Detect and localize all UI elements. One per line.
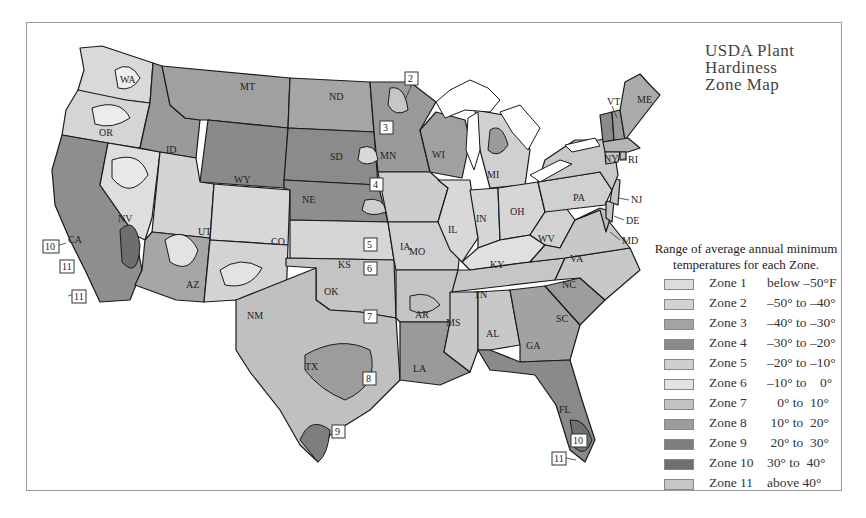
zone-range: above 40° xyxy=(767,475,822,491)
svg-text:5: 5 xyxy=(367,239,372,250)
state-label-al: AL xyxy=(486,328,499,339)
state-label-ms: MS xyxy=(446,317,460,328)
state-label-in: IN xyxy=(476,213,487,224)
zone-2-swatch xyxy=(664,299,694,310)
zone-6-swatch xyxy=(664,379,694,390)
state-label-va: VA xyxy=(570,253,584,264)
state-label-fl: FL xyxy=(559,404,571,415)
svg-text:4: 4 xyxy=(373,179,378,190)
state-label-az: AZ xyxy=(186,279,199,290)
state-label-ca: CA xyxy=(68,234,83,245)
state-label-mn: MN xyxy=(380,150,396,161)
state-label-wy: WY xyxy=(234,174,251,185)
state-label-vt: VT xyxy=(607,96,620,107)
legend-row-zone-8: Zone 8 10° to 20° xyxy=(664,415,844,435)
legend-row-zone-6: Zone 6 –10° to 0° xyxy=(664,375,844,395)
state-label-nm: NM xyxy=(247,310,263,321)
state-label-nv: NV xyxy=(118,213,133,224)
zone-legend: Zone 1 below –50°F Zone 2 –50° to –40° Z… xyxy=(664,275,844,495)
lake-michigan xyxy=(466,112,480,170)
state-label-wa: WA xyxy=(120,74,136,85)
legend-caption-line-1: Range of average annual minimum xyxy=(648,241,844,257)
state-label-sc: SC xyxy=(556,313,569,324)
zone-label: Zone 4 xyxy=(709,335,747,351)
svg-text:10: 10 xyxy=(573,435,583,446)
zone-range: 20° to 30° xyxy=(767,435,829,451)
zone-range: –10° to 0° xyxy=(767,375,832,391)
state-label-ks: KS xyxy=(338,259,351,270)
state-label-la: LA xyxy=(413,363,427,374)
zone-range: 30° to 40° xyxy=(767,455,825,471)
state-label-wi: WI xyxy=(432,149,445,160)
zone-label: Zone 9 xyxy=(709,435,747,451)
state-label-ar: AR xyxy=(415,309,429,320)
state-label-pa: PA xyxy=(573,192,586,203)
svg-text:7: 7 xyxy=(367,311,372,322)
svg-text:2: 2 xyxy=(408,73,413,84)
state-label-nc: NC xyxy=(562,279,576,290)
zone-range: –40° to –30° xyxy=(767,315,836,331)
zone-label: Zone 8 xyxy=(709,415,747,431)
legend-row-zone-11: Zone 11 above 40° xyxy=(664,475,844,495)
zone-range: 10° to 20° xyxy=(767,415,829,431)
legend-row-zone-4: Zone 4 –30° to –20° xyxy=(664,335,844,355)
state-label-wv: WV xyxy=(538,233,555,244)
state-label-sd: SD xyxy=(330,151,343,162)
state-label-nj: NJ xyxy=(631,194,642,205)
zone-label: Zone 7 xyxy=(709,395,747,411)
svg-text:11: 11 xyxy=(74,291,84,302)
state-ia xyxy=(378,172,448,222)
state-me xyxy=(620,74,660,140)
state-label-md: MD xyxy=(622,235,638,246)
zone-10-swatch xyxy=(664,459,694,470)
map-title: USDA Plant Hardiness Zone Map xyxy=(705,42,835,93)
legend-caption-line-2: temperatures for each Zone. xyxy=(648,257,844,273)
state-label-ny: NY xyxy=(604,153,618,164)
state-label-id: ID xyxy=(166,144,177,155)
legend-row-zone-5: Zone 5 –20° to –10° xyxy=(664,355,844,375)
zone-range: below –50°F xyxy=(767,275,837,291)
zone-range: –20° to –10° xyxy=(767,355,836,371)
state-label-mo-final: MO xyxy=(409,246,425,257)
state-label-oh: OH xyxy=(510,206,524,217)
svg-text:8: 8 xyxy=(366,373,371,384)
title-line-3: Zone Map xyxy=(705,76,835,93)
legend-row-zone-2: Zone 2 –50° to –40° xyxy=(664,295,844,315)
legend-row-zone-1: Zone 1 below –50°F xyxy=(664,275,844,295)
zone-label: Zone 2 xyxy=(709,295,747,311)
title-line-1: USDA Plant xyxy=(705,42,835,59)
state-nd xyxy=(288,78,374,132)
state-label-tx: TX xyxy=(305,361,319,372)
state-label-ri: RI xyxy=(628,154,638,165)
zone-5-swatch xyxy=(664,359,694,370)
state-label-ok: OK xyxy=(324,286,339,297)
zone-7-swatch xyxy=(664,399,694,410)
state-ks xyxy=(290,220,394,260)
svg-text:10: 10 xyxy=(45,241,55,252)
state-label-il: IL xyxy=(448,224,457,235)
legend-row-zone-9: Zone 9 20° to 30° xyxy=(664,435,844,455)
zone-label: Zone 6 xyxy=(709,375,747,391)
svg-text:11: 11 xyxy=(554,453,564,464)
zone-label: Zone 10 xyxy=(709,455,754,471)
zone-11-swatch xyxy=(664,479,694,490)
zone-1-swatch xyxy=(664,279,694,290)
legend-row-zone-10: Zone 10 30° to 40° xyxy=(664,455,844,475)
svg-text:6: 6 xyxy=(367,263,372,274)
zone-range: 0° to 10° xyxy=(767,395,829,411)
state-label-nd: ND xyxy=(329,91,343,102)
state-label-co: CO xyxy=(271,236,285,247)
state-label-or: OR xyxy=(99,127,113,138)
svg-text:3: 3 xyxy=(383,122,388,133)
title-line-2: Hardiness xyxy=(705,59,835,76)
zone-label: Zone 11 xyxy=(709,475,753,491)
zone-8-swatch xyxy=(664,419,694,430)
legend-caption: Range of average annual minimum temperat… xyxy=(648,241,844,273)
svg-text:9: 9 xyxy=(335,426,340,437)
state-label-mt: MT xyxy=(240,81,255,92)
zone-range: –50° to –40° xyxy=(767,295,836,311)
zone-label: Zone 5 xyxy=(709,355,747,371)
zone-label: Zone 3 xyxy=(709,315,747,331)
zone-4-swatch xyxy=(664,339,694,350)
lake-superior xyxy=(436,80,500,118)
